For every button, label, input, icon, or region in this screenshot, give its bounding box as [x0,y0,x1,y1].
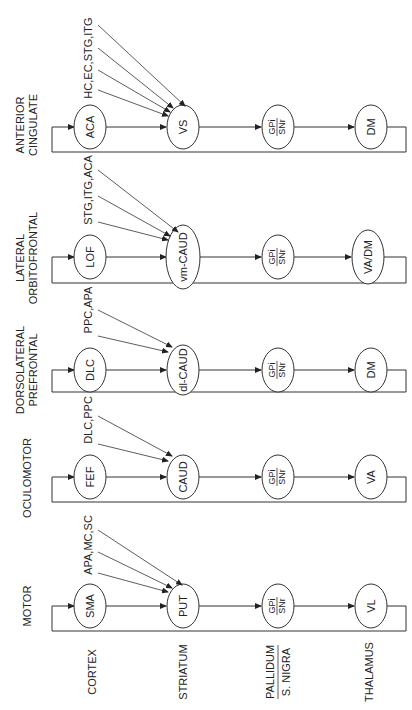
pallidum-node-bottom: SNr [277,598,287,614]
loop-title-line2: CINGULATE [27,94,39,156]
loop-title-line1: ANTERIOR [14,97,26,154]
input-arrow [98,444,168,461]
loop-anterior-cingulate: ANTERIOR CINGULATE ACA VS GPi SNr DM HC,… [14,17,406,156]
loop-title-line1: MOTOR [21,586,33,627]
input-arrow [98,222,168,240]
loop-motor: MOTOR SMA PUT GPi SNr VL APA,MC,SC [21,515,406,631]
pallidum-node-bottom: SNr [277,249,287,265]
input-arrow [98,196,170,236]
inputs-label: APA,MC,SC [82,515,94,575]
loop-title-line1: DORSOLATERAL [14,326,26,414]
loop-title-line1: OCULOMOTOR [21,438,33,518]
stage-label-thalamus: THALAMUS [363,642,375,702]
stage-label-striatum: STRIATUM [177,644,189,699]
input-arrow [98,573,168,592]
striatum-node-label: dl-CAUD [177,348,189,391]
cortex-node-label: ACA [84,115,96,138]
pallidum-node-top: GPi [267,249,277,264]
pallidum-node-bottom: SNr [277,469,287,485]
thalamus-node-label: DM [365,118,377,135]
loop-oculomotor: OCULOMOTOR FEF CAUD GPi SNr VA DLC,PPC [21,396,406,518]
loop-title-line2: ORBITOFRONTAL [27,212,39,305]
input-arrow [98,310,172,347]
basal-ganglia-loops-diagram: ANTERIOR CINGULATE ACA VS GPi SNr DM HC,… [0,0,412,710]
thalamus-node-label: VA/DM [362,240,374,274]
input-arrow [98,90,168,116]
pallidum-node-top: GPi [267,598,277,613]
thalamus-node-label: VA [365,469,377,484]
input-arrow [98,48,173,108]
thalamus-node-label: DM [365,361,377,378]
cortex-node-label: FEF [84,466,96,487]
pallidum-node-top: GPi [267,362,277,377]
striatum-node-label: PUT [177,595,189,617]
inputs-label: STG,ITG,ACA [82,155,94,225]
striatum-node-label: CAUD [177,461,189,492]
loop-title-line2: PREFRONTAL [27,333,39,406]
inputs-label: HC,EC,STG,ITG [82,17,94,98]
input-arrow [98,552,172,588]
stage-label-nigra: S. NIGRA [280,647,292,696]
stage-label-pallidum: PALLIDUM [264,645,276,699]
striatum-node-label: vm-CAUD [177,232,189,282]
inputs-label: PPC,APA [82,286,94,334]
pallidum-node-top: GPi [267,469,277,484]
pallidum-node-bottom: SNr [277,362,287,378]
cortex-node-label: DLC [84,359,96,381]
loop-dorsolateral-prefrontal: DORSOLATERAL PREFRONTAL DLC dl-CAUD GPi … [14,286,406,414]
cortex-node-label: SMA [84,593,96,618]
input-arrow [98,336,168,352]
stage-labels: CORTEX STRIATUM PALLIDUM S. NIGRA THALAM… [86,642,375,702]
loop-title-line1: LATERAL [14,234,26,282]
input-arrow [98,416,172,456]
striatum-node-label: VS [177,120,189,135]
pallidum-node-top: GPi [267,119,277,134]
loop-lateral-orbitofrontal: LATERAL ORBITOFRONTAL LOF vm-CAUD GPi SN… [14,155,406,305]
cortex-node-label: LOF [84,246,96,268]
input-arrow [98,25,185,106]
inputs-label: DLC,PPC [82,396,94,444]
input-arrow [98,170,178,232]
thalamus-node-label: VL [365,599,377,612]
pallidum-node-bottom: SNr [277,119,287,135]
stage-label-cortex: CORTEX [86,649,98,695]
